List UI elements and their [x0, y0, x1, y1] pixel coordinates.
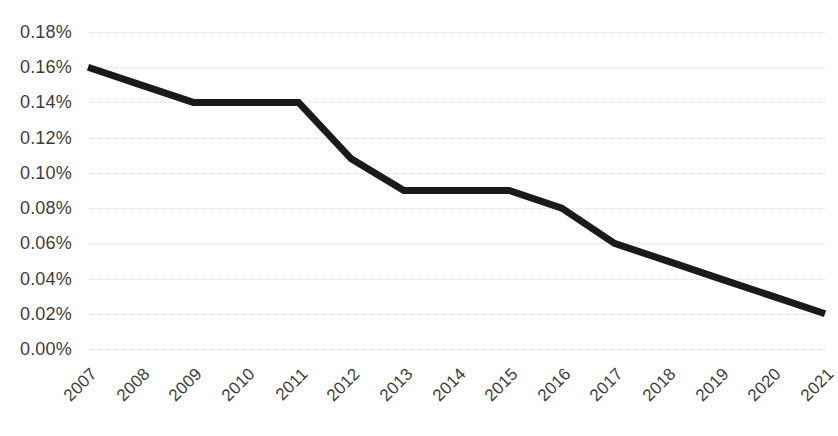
line-chart: 0.18%0.16%0.14%0.12%0.10%0.08%0.06%0.04%… — [0, 0, 838, 436]
x-axis: 2007200820092010201120122013201420152016… — [0, 0, 838, 436]
